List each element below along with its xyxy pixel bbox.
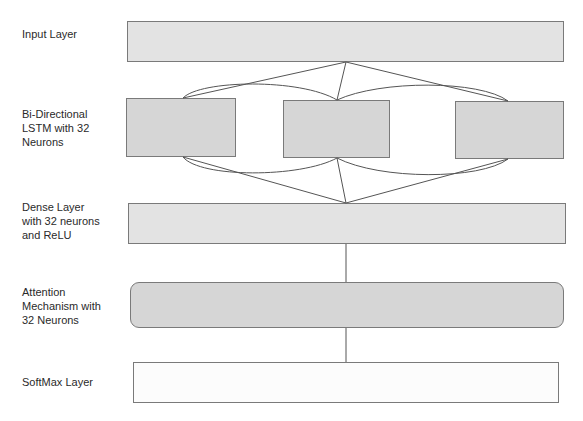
- edge-input-lstm3: [346, 62, 508, 101]
- edge-lstm3-dense: [346, 159, 508, 203]
- edge-input-lstm1: [183, 62, 346, 98]
- edge-lstm2-dense: [337, 158, 346, 203]
- edge-lstm1-lstm2-top-curve: [183, 84, 337, 100]
- connection-edges: [0, 0, 583, 421]
- edge-input-lstm2: [337, 62, 346, 100]
- edge-lstm1-lstm2-bottom-curve: [183, 157, 337, 173]
- edge-lstm2-lstm3-top-curve: [337, 85, 508, 101]
